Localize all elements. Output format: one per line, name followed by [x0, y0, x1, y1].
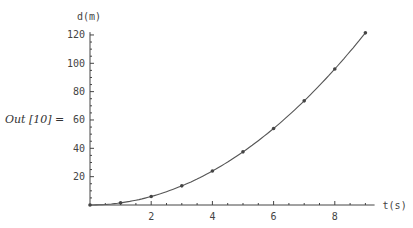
- x-tick-label: 8: [332, 211, 338, 222]
- y-axis-label: d(m): [77, 11, 101, 22]
- data-point: [272, 127, 276, 131]
- data-point: [180, 184, 184, 188]
- x-tick-label: 4: [209, 211, 215, 222]
- x-tick-label: 2: [148, 211, 154, 222]
- data-point: [119, 201, 123, 205]
- data-point: [211, 169, 215, 173]
- y-tick-label: 80: [73, 86, 85, 97]
- data-point: [333, 67, 337, 71]
- y-tick-label: 120: [67, 29, 85, 40]
- fit-curve: [90, 33, 365, 205]
- distance-time-plot: 246820406080100120t(s)d(m): [0, 0, 413, 228]
- y-tick-label: 40: [73, 143, 85, 154]
- data-point: [149, 195, 153, 199]
- data-point: [302, 99, 306, 103]
- x-axis-label: t(s): [383, 200, 407, 211]
- data-point: [364, 31, 368, 35]
- y-tick-label: 100: [67, 58, 85, 69]
- y-tick-label: 20: [73, 171, 85, 182]
- x-tick-label: 6: [271, 211, 277, 222]
- y-tick-label: 60: [73, 114, 85, 125]
- data-point: [241, 150, 245, 154]
- data-point: [88, 203, 92, 207]
